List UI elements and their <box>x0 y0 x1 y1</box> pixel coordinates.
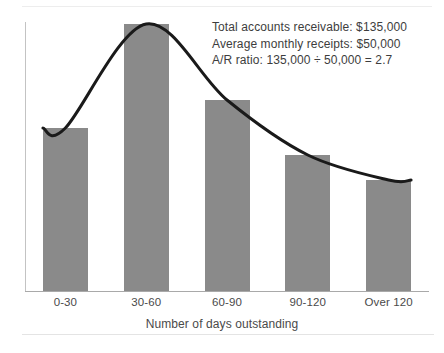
annotation-line-total-receivable: Total accounts receivable: $135,000 <box>212 19 407 36</box>
x-tick-label: 90-120 <box>267 296 348 308</box>
x-axis-title: Number of days outstanding <box>0 317 444 331</box>
x-tick-labels: 0-3030-6060-9090-120Over 120 <box>25 296 429 314</box>
figure-top-rule <box>22 6 432 7</box>
bar <box>124 24 169 291</box>
x-tick-label: 60-90 <box>187 296 268 308</box>
bar <box>285 155 330 291</box>
x-axis-line <box>25 291 429 292</box>
x-tick-label: Over 120 <box>348 296 429 308</box>
bar <box>43 128 88 291</box>
bar <box>205 100 250 291</box>
figure-bottom-rule <box>22 334 434 335</box>
annotation-line-ar-ratio: A/R ratio: 135,000 ÷ 50,000 = 2.7 <box>212 52 407 69</box>
annotation-block: Total accounts receivable: $135,000 Aver… <box>212 19 407 69</box>
x-tick-label: 30-60 <box>106 296 187 308</box>
x-tick-label: 0-30 <box>25 296 106 308</box>
annotation-line-monthly-receipts: Average monthly receipts: $50,000 <box>212 36 407 53</box>
chart-figure: 0-3030-6060-9090-120Over 120 Number of d… <box>0 0 444 353</box>
bar <box>366 180 411 291</box>
